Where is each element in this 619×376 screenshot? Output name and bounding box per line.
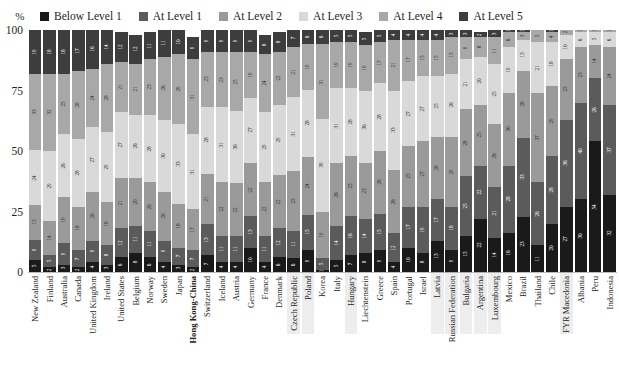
x-axis-label-cell[interactable]: Brazil	[517, 274, 530, 374]
bar-column[interactable]: 631391951	[316, 30, 329, 272]
x-axis-label-cell[interactable]: Switzerland	[201, 274, 214, 374]
bar-column[interactable]: 5192825167	[345, 30, 358, 272]
x-axis-label-cell[interactable]: Sweden	[158, 274, 171, 374]
x-axis-label-cell[interactable]: Norway	[144, 274, 157, 374]
legend-item-3[interactable]: At Level 2	[219, 10, 282, 22]
x-axis-label-cell[interactable]: Belgium	[129, 274, 142, 374]
bar-column[interactable]: 5172826159	[374, 30, 387, 272]
bar-segment: 28	[302, 90, 315, 157]
x-axis-label-cell[interactable]: Canada	[72, 274, 85, 374]
x-axis-label-cell[interactable]: Hong Kong-China	[187, 274, 200, 374]
bar-column[interactable]: 15142654	[589, 30, 602, 272]
x-axis-label-cell[interactable]: Iceland	[216, 274, 229, 374]
bar-segment: 25	[431, 76, 444, 137]
x-axis-label-cell[interactable]: Czech Republic	[287, 274, 300, 374]
legend-item-2[interactable]: At Level 1	[139, 10, 202, 22]
x-axis-label-cell[interactable]: Ireland	[101, 274, 114, 374]
x-axis-label-cell[interactable]: Bulgaria	[460, 274, 473, 374]
bar-column[interactable]: 1428291883	[101, 30, 114, 272]
bar-column[interactable]: 1728281872	[72, 30, 85, 272]
bar-column[interactable]: 3921282515	[460, 30, 473, 272]
x-axis-label-cell[interactable]: Indonesia	[603, 274, 616, 374]
bar-column[interactable]: 210253627	[560, 30, 573, 272]
bar-segment-value: 26	[535, 211, 540, 216]
x-axis-label-cell[interactable]: Spain	[388, 274, 401, 374]
bar-segment-value: 4	[90, 266, 95, 269]
x-axis-label-cell[interactable]: Hungary	[345, 274, 358, 374]
x-axis-label-cell[interactable]: Peru	[589, 274, 602, 374]
legend-item-1[interactable]: Below Level 1	[40, 10, 122, 22]
bar-column[interactable]: 6192824159	[302, 30, 315, 272]
bar-segment-value: 21	[119, 84, 124, 89]
bar-column[interactable]: 931311772	[187, 30, 200, 272]
bar-column[interactable]: 41727251710	[402, 30, 415, 272]
legend-swatch-icon	[40, 12, 49, 21]
x-axis-label-cell[interactable]: Latvia	[431, 274, 444, 374]
x-axis-label-cell[interactable]: France	[259, 274, 272, 374]
x-axis-label-cell[interactable]: Denmark	[273, 274, 286, 374]
bar-column[interactable]: 3152629189	[445, 30, 458, 272]
bar-segment-value: 37	[535, 135, 540, 140]
x-axis-label-cell[interactable]: Australia	[58, 274, 71, 374]
x-axis-label-cell[interactable]: Argentina	[474, 274, 487, 374]
x-axis-label-cell[interactable]: United Kingdom	[86, 274, 99, 374]
x-axis-label-cell[interactable]: Chile	[546, 274, 559, 374]
bar-segment-value: 26	[492, 153, 497, 158]
x-axis-label-cell[interactable]: Finland	[43, 274, 56, 374]
bar-column[interactable]: 7213125116	[287, 30, 300, 272]
x-axis-label-cell[interactable]: Mexico	[503, 274, 516, 374]
x-axis-label-cell[interactable]: Thailand	[531, 274, 544, 374]
bar-column[interactable]: 9232821137	[201, 30, 214, 272]
x-axis-label-cell[interactable]: Israel	[417, 274, 430, 374]
x-axis-label-cell[interactable]: Albania	[575, 274, 588, 374]
bar-column[interactable]: 1029331873	[172, 30, 185, 272]
legend-item-5[interactable]: At Level 4	[379, 10, 442, 22]
bar-column[interactable]: 1619302816	[503, 30, 516, 272]
bar-column[interactable]: 1825261993	[58, 30, 71, 272]
x-axis-label-cell[interactable]: New Zealand	[29, 274, 42, 374]
legend-item-4[interactable]: At Level 3	[299, 10, 362, 22]
bar-column[interactable]: 5193023148	[359, 30, 372, 272]
x-axis-label-cell[interactable]: FYR Macedonia	[560, 274, 573, 374]
x-axis-label-cell[interactable]: Japan	[172, 274, 185, 374]
x-axis-label-cell[interactable]: Poland	[302, 274, 315, 374]
bar-column[interactable]: 521372611	[531, 30, 544, 272]
bar-segment-value: 22	[234, 207, 239, 212]
legend-item-6[interactable]: At Level 5	[459, 10, 522, 22]
bar-column[interactable]: 1313283323	[517, 30, 530, 272]
bar-column[interactable]: 1418292820	[546, 30, 559, 272]
bar-column[interactable]: 1832291452	[43, 30, 56, 272]
bar-column[interactable]: 11232820116	[144, 30, 157, 272]
bar-column[interactable]: 41525261713	[431, 30, 444, 272]
bar-column[interactable]: 1126302094	[158, 30, 171, 272]
bar-column[interactable]: 31125262114	[488, 30, 501, 272]
bar-column[interactable]: 12212620118	[129, 30, 142, 272]
bar-column[interactable]: 9233122114	[216, 30, 229, 272]
bar-column[interactable]: 91927221310	[244, 30, 257, 272]
x-axis-label-cell[interactable]: Italy	[330, 274, 343, 374]
bar-column[interactable]: 1933241595	[29, 30, 42, 272]
x-axis-label-cell[interactable]: United States	[115, 274, 128, 374]
bar-segment: 17	[431, 199, 444, 240]
bar-column[interactable]: 4213326124	[388, 30, 401, 272]
x-axis-label-cell[interactable]: Germany	[244, 274, 257, 374]
bar-column[interactable]: 16234030	[575, 30, 588, 272]
bar-segment-value: 9	[33, 249, 38, 252]
bar-column[interactable]: 16243732	[603, 30, 616, 272]
x-axis-label-cell[interactable]: Luxembourg	[488, 274, 501, 374]
bar-column[interactable]: 12212721126	[115, 30, 128, 272]
bar-column[interactable]: 4152727198	[417, 30, 430, 272]
bar-column[interactable]: 9253022114	[230, 30, 243, 272]
bar-column[interactable]: 8222922126	[273, 30, 286, 272]
bar-column[interactable]: 5193126145	[330, 30, 343, 272]
bar-column[interactable]: 1624272094	[86, 30, 99, 272]
bar-column[interactable]: 8242922114	[259, 30, 272, 272]
x-axis-label-cell[interactable]: Greece	[374, 274, 387, 374]
x-axis-label-cell[interactable]: Korea	[316, 274, 329, 374]
bar-column[interactable]: 2820252222	[474, 30, 487, 272]
x-axis-label-cell[interactable]: Liechtenstein	[359, 274, 372, 374]
x-axis-label-cell[interactable]: Russian Federation	[445, 274, 458, 374]
x-axis-label-cell[interactable]: Portugal	[402, 274, 415, 374]
x-axis-label-cell[interactable]: Austria	[230, 274, 243, 374]
bar-segment-value: 23	[521, 242, 526, 247]
